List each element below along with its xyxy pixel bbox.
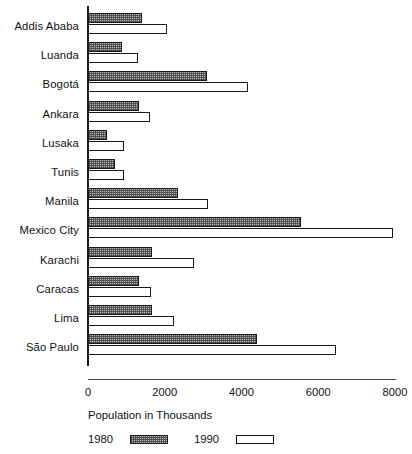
x-tick-labels: 02000400060008000 [0, 385, 412, 401]
bars-group [88, 246, 408, 275]
category-label-bogot-: Bogotá [0, 77, 79, 91]
bar-1980-manila[interactable] [88, 188, 178, 198]
bar-1980-caracas[interactable] [88, 276, 139, 286]
x-axis-line [88, 379, 396, 380]
category-label-ankara: Ankara [0, 107, 79, 121]
chart-category-row: Manila [0, 187, 412, 216]
bars-group [88, 304, 408, 333]
bar-1990-karachi[interactable] [88, 258, 194, 268]
bar-1990-caracas[interactable] [88, 287, 151, 297]
bar-1980-lima[interactable] [88, 305, 152, 315]
x-tick-label-0: 0 [85, 385, 91, 399]
legend-label-1990: 1990 [194, 432, 219, 446]
chart-category-row: Luanda [0, 41, 412, 70]
legend-label-1980: 1980 [88, 432, 113, 446]
bars-group [88, 100, 408, 129]
category-label-luanda: Luanda [0, 48, 79, 62]
chart-category-row: Caracas [0, 275, 412, 304]
bars-group [88, 216, 408, 245]
bars-group [88, 129, 408, 158]
bar-1990-s-o-paulo[interactable] [88, 345, 336, 355]
legend-swatch-1980-icon [130, 435, 168, 444]
bar-1980-s-o-paulo[interactable] [88, 334, 257, 344]
category-label-lima: Lima [0, 311, 79, 325]
category-label-manila: Manila [0, 194, 79, 208]
bar-1990-lusaka[interactable] [88, 141, 124, 151]
bar-1990-lima[interactable] [88, 316, 174, 326]
chart-category-row: Lusaka [0, 129, 412, 158]
x-tick-label-8000: 8000 [383, 385, 408, 399]
category-label-lusaka: Lusaka [0, 136, 79, 150]
bar-1980-mexico-city[interactable] [88, 217, 301, 227]
x-tick-label-2000: 2000 [152, 385, 177, 399]
category-label-addis-ababa: Addis Ababa [0, 19, 79, 33]
category-label-mexico-city: Mexico City [0, 223, 79, 237]
chart-category-row: Bogotá [0, 70, 412, 99]
x-tick-label-4000: 4000 [229, 385, 254, 399]
bars-group [88, 333, 408, 362]
legend-item-1990[interactable]: 1990 [194, 431, 274, 447]
bar-chart: Addis AbabaLuandaBogotáAnkaraLusakaTunis… [0, 0, 412, 454]
chart-category-row: Mexico City [0, 216, 412, 245]
chart-category-row: Tunis [0, 158, 412, 187]
bar-1980-ankara[interactable] [88, 101, 139, 111]
category-label-s-o-paulo: São Paulo [0, 340, 79, 354]
plot-area: Addis AbabaLuandaBogotáAnkaraLusakaTunis… [0, 6, 412, 366]
bar-1980-bogot-[interactable] [88, 71, 207, 81]
legend-item-1980[interactable]: 1980 [88, 431, 168, 447]
bar-1980-luanda[interactable] [88, 42, 122, 52]
bar-1980-tunis[interactable] [88, 159, 115, 169]
bars-group [88, 187, 408, 216]
bar-1990-mexico-city[interactable] [88, 228, 393, 238]
chart-category-row: Lima [0, 304, 412, 333]
bars-group [88, 275, 408, 304]
bar-1990-luanda[interactable] [88, 53, 138, 63]
bars-group [88, 41, 408, 70]
chart-legend: 1980 1990 [88, 431, 388, 449]
bars-group [88, 70, 408, 99]
bar-1990-addis-ababa[interactable] [88, 24, 167, 34]
bar-1990-tunis[interactable] [88, 170, 124, 180]
bar-1990-manila[interactable] [88, 199, 208, 209]
category-label-tunis: Tunis [0, 165, 79, 179]
bar-1990-ankara[interactable] [88, 112, 150, 122]
bar-1980-lusaka[interactable] [88, 130, 107, 140]
bar-1990-bogot-[interactable] [88, 82, 248, 92]
chart-category-row: São Paulo [0, 333, 412, 362]
bars-group [88, 12, 408, 41]
bars-group [88, 158, 408, 187]
bar-1980-addis-ababa[interactable] [88, 13, 142, 23]
x-tick-label-6000: 6000 [306, 385, 331, 399]
category-label-caracas: Caracas [0, 282, 79, 296]
chart-category-row: Addis Ababa [0, 12, 412, 41]
category-label-karachi: Karachi [0, 253, 79, 267]
bar-1980-karachi[interactable] [88, 247, 152, 257]
legend-swatch-1990-icon [236, 435, 274, 444]
x-axis-title: Population in Thousands [88, 408, 212, 422]
chart-category-row: Karachi [0, 246, 412, 275]
chart-category-row: Ankara [0, 100, 412, 129]
